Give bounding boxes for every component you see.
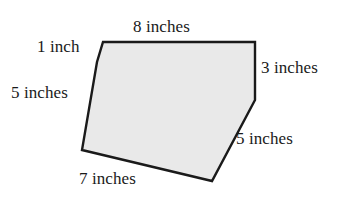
side-label-top: 8 inches <box>133 17 190 36</box>
side-label-top-left: 1 inch <box>37 37 80 56</box>
irregular-hexagon-polygon <box>82 42 255 181</box>
side-label-left: 5 inches <box>11 83 68 102</box>
side-label-lower-right: 5 inches <box>236 129 293 148</box>
side-label-right: 3 inches <box>261 58 318 77</box>
side-label-bottom: 7 inches <box>79 169 136 188</box>
geometry-figure: 8 inches 1 inch 5 inches 3 inches 5 inch… <box>0 0 351 201</box>
